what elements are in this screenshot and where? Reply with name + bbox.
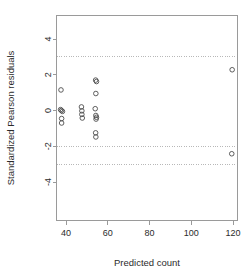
- plot-frame: [57, 16, 238, 221]
- data-point: [94, 79, 99, 84]
- scatter-plot-figure: 420-2-4 406080100120 Predicted count Sta…: [0, 0, 249, 278]
- data-point: [59, 116, 64, 121]
- data-point: [230, 67, 235, 72]
- y-tick-label: -4: [43, 178, 53, 186]
- y-tick-label: 4: [43, 36, 53, 41]
- plot-border: [57, 16, 238, 221]
- y-tick-label: -2: [43, 142, 53, 150]
- x-tick-label: 80: [144, 228, 154, 238]
- x-tick-label: 40: [61, 228, 71, 238]
- data-point: [94, 91, 99, 96]
- data-point: [229, 151, 234, 156]
- data-point: [59, 88, 64, 93]
- y-axis: 420-2-4: [43, 36, 57, 186]
- x-axis-title: Predicted count: [114, 257, 180, 268]
- x-tick-label: 60: [103, 228, 113, 238]
- chart-canvas: 420-2-4 406080100120 Predicted count Sta…: [0, 0, 249, 278]
- data-point: [93, 106, 98, 111]
- x-tick-label: 100: [184, 228, 199, 238]
- x-tick-label: 120: [225, 228, 240, 238]
- reference-lines-group: [57, 57, 238, 164]
- data-point: [59, 121, 64, 126]
- y-tick-label: 2: [43, 72, 53, 77]
- y-axis-title: Standardized Pearson residuals: [5, 50, 16, 185]
- data-points-group: [58, 67, 234, 156]
- x-axis: 406080100120: [61, 221, 241, 238]
- y-tick-label: 0: [43, 108, 53, 113]
